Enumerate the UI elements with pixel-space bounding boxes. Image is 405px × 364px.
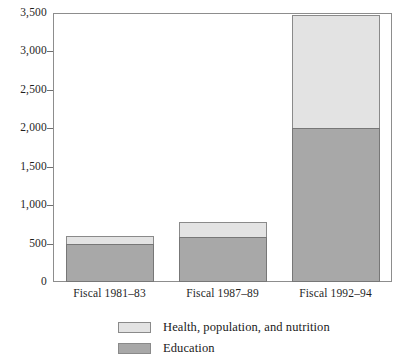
legend-swatch-icon xyxy=(118,343,151,354)
stacked-bar-chart: 05001,0001,5002,0002,5003,0003,500 Fisca… xyxy=(0,0,405,364)
bar-segment-health-population-nutrition xyxy=(66,236,154,244)
y-axis-tick-mark xyxy=(47,244,53,245)
legend-swatch-icon xyxy=(118,322,151,333)
legend-label: Health, population, and nutrition xyxy=(163,321,330,334)
legend-item: Health, population, and nutrition xyxy=(118,317,330,338)
bar-segment-education xyxy=(292,128,380,282)
bar-segment-education xyxy=(179,237,267,282)
y-axis-tick-mark xyxy=(47,51,53,52)
bar-3 xyxy=(292,15,380,282)
y-axis-tick-mark xyxy=(47,90,53,91)
x-axis-tick-label: Fiscal 1992–94 xyxy=(266,287,405,300)
y-axis: 05001,0001,5002,0002,5003,0003,500 xyxy=(0,0,47,300)
y-axis-tick-mark xyxy=(47,167,53,168)
bar-segment-health-population-nutrition xyxy=(292,15,380,129)
bar-segment-health-population-nutrition xyxy=(179,222,267,237)
y-axis-tick-mark xyxy=(47,128,53,129)
y-axis-tick-label: 500 xyxy=(0,238,47,250)
legend-item: Education xyxy=(118,338,330,359)
y-axis-tick-label: 2,500 xyxy=(0,84,47,96)
y-axis-tick-label: 1,000 xyxy=(0,199,47,211)
bar-segment-education xyxy=(66,244,154,282)
bar-1 xyxy=(66,236,154,282)
y-axis-tick-mark xyxy=(47,205,53,206)
y-axis-tick-label: 2,000 xyxy=(0,123,47,135)
y-axis-tick-label: 3,500 xyxy=(0,7,47,19)
y-axis-tick-label: 3,000 xyxy=(0,46,47,58)
y-axis-tick-label: 1,500 xyxy=(0,161,47,173)
bar-2 xyxy=(179,222,267,282)
chart-legend: Health, population, and nutritionEducati… xyxy=(118,317,330,359)
legend-label: Education xyxy=(163,342,215,355)
